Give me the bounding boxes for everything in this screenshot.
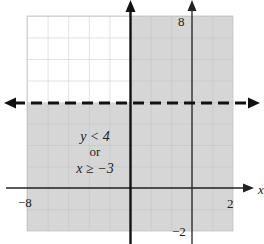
inequality-y-lt-4: y < 4 [78,129,110,144]
tick-label-y-max: 8 [178,14,185,29]
x-axis-label: x [257,182,264,197]
tick-label-y-min: −2 [172,224,186,239]
inequality-graph: −8 2 8 −2 x y < 4 or x ≥ −3 [0,0,264,244]
tick-label-x-min: −8 [18,195,32,210]
inequality-x-ge-neg3: x ≥ −3 [75,161,113,176]
tick-label-x-max: 2 [227,196,234,211]
or-label: or [90,144,102,159]
